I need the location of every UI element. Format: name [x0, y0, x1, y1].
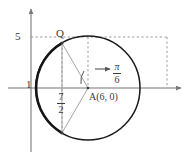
chord-fraction-numerator: 7: [59, 92, 64, 103]
angle-fraction-numerator: π: [114, 62, 119, 73]
angle-fraction-denominator: 6: [115, 74, 120, 85]
chord-length-fraction-label: 7 2: [57, 92, 65, 115]
chord-fraction-denominator: 2: [59, 104, 64, 115]
point-label-a: A(6, 0): [89, 92, 118, 102]
point-label-q: Q: [56, 28, 64, 39]
y-tick-label-5: 5: [15, 31, 21, 42]
segment-center-to-bottom: [62, 88, 88, 133]
angle-fraction-label: π 6: [113, 62, 121, 85]
x-tick-label-1: 1: [26, 79, 32, 90]
point-bottom-dot: [61, 132, 64, 135]
circle-geometry-figure: 5 1 Q A(6, 0) 7 2 π 6: [0, 0, 188, 161]
segment-q-to-center: [62, 43, 88, 88]
point-a-dot: [87, 87, 90, 90]
axes-group: [8, 9, 181, 152]
angle-marker-group: [81, 69, 110, 84]
point-q-dot: [61, 42, 64, 45]
